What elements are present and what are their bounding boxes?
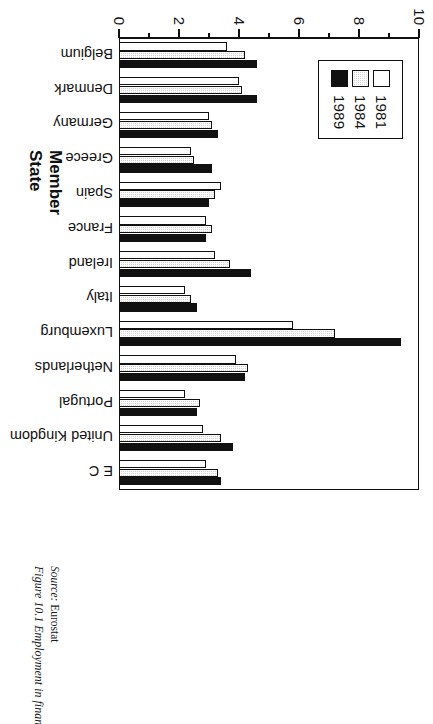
bar-group <box>119 455 419 490</box>
category-axis-title-line2: State <box>25 150 45 215</box>
value-axis: 0246810 <box>119 23 419 38</box>
legend-entry-1981: 1981 <box>373 70 390 129</box>
legend-entry-1989: 1989 <box>331 70 348 129</box>
bar-italy-1984 <box>119 295 191 303</box>
bar-denmark-1981 <box>119 77 239 85</box>
bar-france-1984 <box>119 225 212 233</box>
category-label-greece: Greece <box>65 151 113 166</box>
source-line: Source: Eurostat <box>49 566 61 724</box>
bar-portugal-1989 <box>119 408 197 416</box>
bar-greece-1989 <box>119 164 212 172</box>
category-label-netherlands: Netherlands <box>35 359 113 374</box>
bar-denmark-1989 <box>119 95 257 103</box>
bar-united-kingdom-1981 <box>119 425 203 433</box>
value-axis-tick <box>298 29 299 38</box>
bar-luxemburg-1981 <box>119 321 293 329</box>
bar-france-1989 <box>119 234 206 242</box>
bar-spain-1981 <box>119 182 221 190</box>
value-axis-minor-tick <box>388 33 389 38</box>
value-axis-tick <box>358 29 359 38</box>
value-axis-tick-label: 8 <box>351 1 368 25</box>
value-axis-minor-tick <box>148 33 149 38</box>
bar-group <box>119 351 419 386</box>
bar-belgium-1989 <box>119 60 257 68</box>
bar-group <box>119 386 419 421</box>
bar-spain-1989 <box>119 199 209 207</box>
legend-label-1989: 1989 <box>331 95 348 129</box>
bar-group <box>119 281 419 316</box>
bar-netherlands-1989 <box>119 373 245 381</box>
value-axis-tick-label: 2 <box>171 1 188 25</box>
category-label-ireland: Ireland <box>69 255 113 270</box>
value-axis-tick-label: 6 <box>291 1 308 25</box>
bar-netherlands-1981 <box>119 355 236 363</box>
bar-group <box>119 420 419 455</box>
source-label: Source: <box>49 566 61 601</box>
gray-square-icon <box>352 70 369 87</box>
legend-label-1981: 1981 <box>373 95 390 129</box>
bar-luxemburg-1984 <box>119 329 335 337</box>
bar-ireland-1981 <box>119 251 215 259</box>
bar-belgium-1984 <box>119 51 245 59</box>
bar-group <box>119 316 419 351</box>
bar-belgium-1981 <box>119 42 227 50</box>
bar-e-c-1984 <box>119 469 218 477</box>
bar-italy-1989 <box>119 303 197 311</box>
category-axis-labels: BelgiumDenmarkGermanyGreeceSpainFranceIr… <box>19 38 115 490</box>
figure-caption: Source: Eurostat Figure 10.1 Employment … <box>31 566 61 724</box>
figure-caption-text: Figure 10.1 Employment in financial serv… <box>31 566 46 724</box>
category-label-italy: Italy <box>86 290 113 305</box>
bar-ireland-1989 <box>119 269 251 277</box>
bar-italy-1981 <box>119 286 185 294</box>
black-square-icon <box>331 70 348 87</box>
value-axis-tick <box>118 29 119 38</box>
bar-netherlands-1984 <box>119 364 248 372</box>
bar-germany-1981 <box>119 112 209 120</box>
value-axis-tick-label: 0 <box>111 1 128 25</box>
bar-spain-1984 <box>119 190 215 198</box>
bar-group <box>119 177 419 212</box>
bar-group <box>119 212 419 247</box>
value-axis-tick <box>238 29 239 38</box>
category-label-france: France <box>68 220 113 235</box>
value-axis-tick <box>418 29 419 38</box>
bar-luxemburg-1989 <box>119 338 401 346</box>
value-axis-tick-label: 10 <box>411 1 428 25</box>
category-label-luxemburg: Luxemburg <box>40 325 113 340</box>
category-label-belgium: Belgium <box>61 46 113 61</box>
category-axis-title: Member State <box>25 150 65 215</box>
bar-e-c-1981 <box>119 460 206 468</box>
value-axis-minor-tick <box>328 33 329 38</box>
category-label-portugal: Portugal <box>59 394 113 409</box>
bar-united-kingdom-1984 <box>119 434 221 442</box>
category-label-e-c: E C <box>89 464 113 479</box>
bar-e-c-1989 <box>119 477 221 485</box>
bar-portugal-1981 <box>119 390 185 398</box>
bar-france-1981 <box>119 216 206 224</box>
chart-legend: 198119841989 <box>318 60 403 139</box>
value-axis-minor-tick <box>208 33 209 38</box>
bar-ireland-1984 <box>119 260 230 268</box>
figure-container: 0246810 % of Country Total BelgiumDenmar… <box>0 0 433 724</box>
value-axis-minor-tick <box>268 33 269 38</box>
value-axis-tick <box>178 29 179 38</box>
value-axis-tick-label: 4 <box>231 1 248 25</box>
bar-denmark-1984 <box>119 86 242 94</box>
bar-group <box>119 142 419 177</box>
category-label-denmark: Denmark <box>54 81 113 96</box>
bar-greece-1981 <box>119 147 191 155</box>
bar-united-kingdom-1989 <box>119 443 233 451</box>
white-square-icon <box>373 70 390 87</box>
source-value: Eurostat <box>49 604 61 642</box>
bar-portugal-1984 <box>119 399 200 407</box>
bar-germany-1984 <box>119 121 212 129</box>
category-label-spain: Spain <box>76 185 113 200</box>
legend-label-1984: 1984 <box>352 95 369 129</box>
bar-germany-1989 <box>119 130 218 138</box>
category-label-united-kingdom: United Kingdom <box>10 429 113 444</box>
category-label-germany: Germany <box>53 116 113 131</box>
category-axis-title-line1: Member <box>45 150 65 215</box>
legend-entry-1984: 1984 <box>352 70 369 129</box>
bar-greece-1984 <box>119 156 194 164</box>
bar-group <box>119 247 419 282</box>
